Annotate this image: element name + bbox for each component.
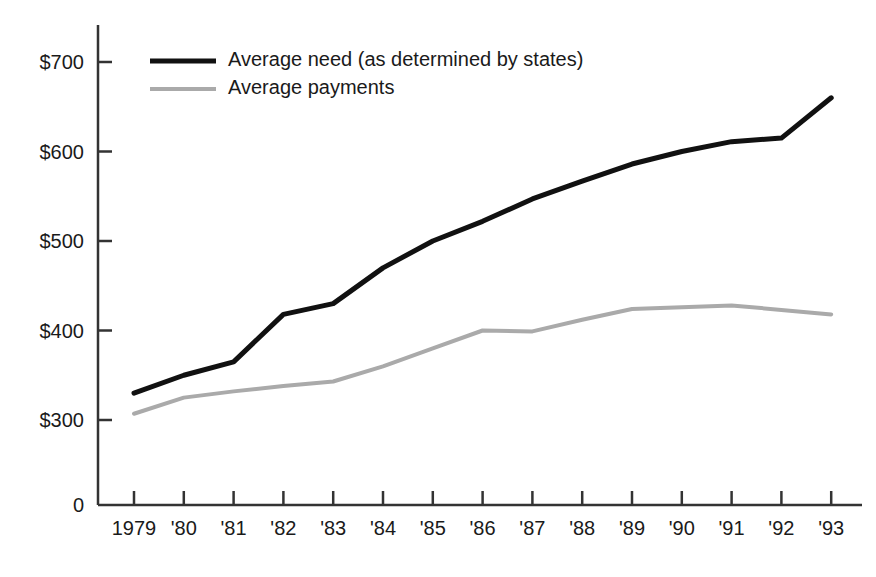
y-axis-tick-label: $700	[40, 51, 85, 73]
x-axis-tick-label: '90	[669, 517, 695, 539]
legend-label-0: Average need (as determined by states)	[228, 48, 583, 70]
legend-label-1: Average payments	[228, 76, 394, 98]
x-axis-tick-label: '81	[221, 517, 247, 539]
line-chart: $300$400$500$600$70001979'80'81'82'83'84…	[0, 0, 876, 577]
chart-container: $300$400$500$600$70001979'80'81'82'83'84…	[0, 0, 876, 577]
x-axis-tick-label: '82	[270, 517, 296, 539]
x-axis-tick-label: '89	[619, 517, 645, 539]
x-axis-tick-label: 1979	[112, 517, 157, 539]
series-line-0	[134, 98, 831, 393]
y-axis-tick-label: $300	[40, 409, 85, 431]
x-axis-tick-label: '92	[768, 517, 794, 539]
x-axis-tick-label: '91	[719, 517, 745, 539]
x-axis-tick-label: '83	[320, 517, 346, 539]
x-axis-tick-label: '85	[420, 517, 446, 539]
x-axis-tick-label: '93	[818, 517, 844, 539]
x-axis-tick-label: '87	[519, 517, 545, 539]
y-axis-tick-label: $400	[40, 320, 85, 342]
x-axis-tick-label: '84	[370, 517, 396, 539]
y-axis-tick-label: $600	[40, 141, 85, 163]
x-axis-tick-label: '86	[470, 517, 496, 539]
x-axis-tick-label: '88	[569, 517, 595, 539]
y-axis-zero-label: 0	[73, 494, 84, 516]
y-axis-tick-label: $500	[40, 230, 85, 252]
x-axis-tick-label: '80	[171, 517, 197, 539]
